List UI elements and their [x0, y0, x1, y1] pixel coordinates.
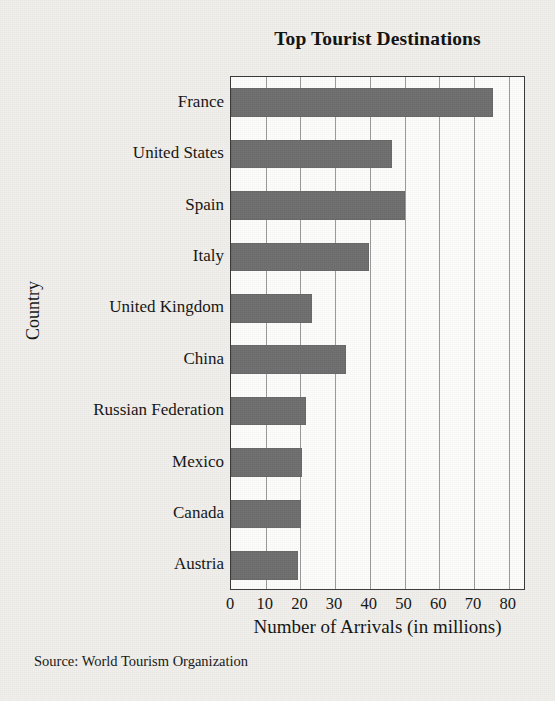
x-axis-tick-label: 0	[226, 594, 234, 614]
bar	[231, 551, 298, 580]
y-axis-title: Country	[23, 256, 44, 366]
y-axis-tick-label: Austria	[40, 554, 224, 574]
x-axis-tick-label: 40	[361, 594, 378, 614]
source-note: Source: World Tourism Organization	[34, 653, 248, 670]
y-axis-tick-label: United Kingdom	[40, 297, 224, 317]
x-axis-title: Number of Arrivals (in millions)	[205, 616, 550, 638]
chart-figure: Top Tourist Destinations FranceUnited St…	[0, 0, 555, 701]
bar	[231, 140, 392, 169]
plot-area	[230, 76, 525, 590]
bar	[231, 243, 369, 272]
y-axis-tick-label: Italy	[40, 246, 224, 266]
y-axis-tick-labels: FranceUnited StatesSpainItalyUnited King…	[40, 76, 224, 590]
bar	[231, 88, 493, 117]
bar	[231, 191, 405, 220]
x-axis-tick-labels: 01020304050607080	[230, 594, 525, 616]
x-axis-tick-label: 80	[499, 594, 516, 614]
y-axis-tick-label: Russian Federation	[40, 400, 224, 420]
x-axis-tick-label: 20	[291, 594, 308, 614]
y-axis-tick-label: China	[40, 349, 224, 369]
y-axis-tick-label: France	[40, 92, 224, 112]
bar	[231, 397, 306, 426]
y-axis-tick-label: Spain	[40, 195, 224, 215]
bar	[231, 345, 346, 374]
x-axis-tick-label: 50	[395, 594, 412, 614]
chart-title: Top Tourist Destinations	[230, 28, 525, 50]
x-axis-tick-label: 30	[326, 594, 343, 614]
y-axis-tick-label: Mexico	[40, 452, 224, 472]
y-axis-tick-label: Canada	[40, 503, 224, 523]
x-axis-tick-label: 70	[465, 594, 482, 614]
x-axis-tick-label: 60	[430, 594, 447, 614]
bar	[231, 448, 302, 477]
bar	[231, 294, 312, 323]
bar	[231, 500, 301, 529]
x-axis-tick-label: 10	[256, 594, 273, 614]
y-axis-tick-label: United States	[40, 143, 224, 163]
bars-layer	[231, 77, 524, 589]
